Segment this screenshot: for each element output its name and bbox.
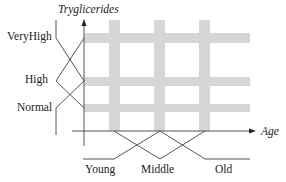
mf-high	[56, 38, 84, 108]
diagram-canvas	[0, 0, 286, 182]
band-horizontal-high	[84, 77, 250, 86]
y-set-label-veryhigh: VeryHigh	[7, 31, 52, 43]
mf-middle	[114, 131, 205, 159]
mf-veryhigh	[56, 20, 84, 81]
y-axis-title: Tryglicerides	[58, 4, 119, 16]
x-axis-title: Age	[261, 126, 279, 138]
y-set-label-high: High	[25, 74, 48, 86]
y-axis-arrow-icon	[82, 19, 87, 26]
fuzzy-grid-diagram: Tryglicerides Age VeryHigh High Normal Y…	[0, 0, 286, 182]
mf-normal	[56, 81, 84, 135]
band-horizontal-veryhigh	[84, 33, 250, 43]
x-set-label-middle: Middle	[141, 164, 174, 176]
x-set-label-young: Young	[85, 164, 115, 176]
x-axis-arrow-icon	[249, 129, 256, 134]
band-horizontal-normal	[84, 104, 250, 112]
mf-old	[160, 131, 250, 159]
x-set-label-old: Old	[215, 164, 232, 176]
grid-bands	[84, 20, 250, 131]
y-set-label-normal: Normal	[17, 102, 52, 114]
